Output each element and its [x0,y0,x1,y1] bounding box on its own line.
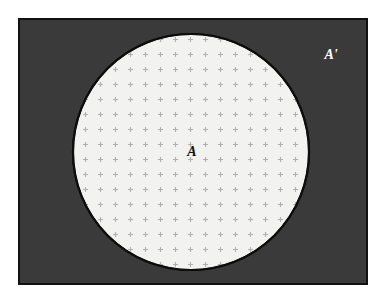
set-diagram-canvas: A A' [0,0,387,300]
set-a-label: A [186,144,196,159]
set-diagram-figure: A A' [0,0,387,300]
complement-label: A' [323,47,337,62]
